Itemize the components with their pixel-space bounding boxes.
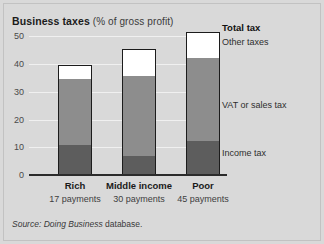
category-label-rich: Rich 17 payments xyxy=(49,180,101,204)
y-axis-tick-label: 40 xyxy=(14,59,24,69)
y-axis-tick-label: 20 xyxy=(14,115,24,125)
bar-middle-income xyxy=(122,49,156,175)
annotation-income-tax: Income tax xyxy=(222,148,266,158)
bar-segment-vat-or-sales-tax xyxy=(59,79,91,145)
plot-area: 01020304050 xyxy=(29,28,215,175)
annotation-other-taxes: Other taxes xyxy=(222,37,269,47)
bar-poor xyxy=(186,32,220,175)
bar-segment-income-tax xyxy=(187,141,219,175)
y-axis-tick-label: 10 xyxy=(14,142,24,152)
chart-title-subtitle: (% of gross profit) xyxy=(90,16,174,27)
bar-segment-income-tax xyxy=(123,156,155,175)
source-italic: Source: Doing Business xyxy=(12,219,103,229)
annotation-total-tax: Total tax xyxy=(222,22,260,33)
annotation-vat-or-sales-tax: VAT or sales tax xyxy=(222,100,287,110)
source-plain: database. xyxy=(103,219,143,229)
bar-segment-vat-or-sales-tax xyxy=(123,76,155,156)
chart-title: Business taxes (% of gross profit) xyxy=(12,11,174,29)
bar-segment-income-tax xyxy=(59,145,91,175)
category-name: Poor xyxy=(177,180,229,191)
bar-segment-other-taxes xyxy=(187,33,219,58)
category-name: Middle income xyxy=(106,180,172,191)
y-axis-tick-label: 30 xyxy=(14,87,24,97)
bar-segment-vat-or-sales-tax xyxy=(187,58,219,141)
category-name: Rich xyxy=(49,180,101,191)
chart-title-main: Business taxes xyxy=(12,15,90,27)
category-sublabel: 45 payments xyxy=(177,194,229,204)
source-note: Source: Doing Business database. xyxy=(12,219,142,229)
category-sublabel: 30 payments xyxy=(106,194,172,204)
chart-figure: Business taxes (% of gross profit) 01020… xyxy=(0,0,324,244)
y-axis-tick-label: 50 xyxy=(14,31,24,41)
category-sublabel: 17 payments xyxy=(49,194,101,204)
bar-segment-other-taxes xyxy=(59,66,91,78)
x-axis-line xyxy=(29,174,227,176)
category-label-middle-income: Middle income 30 payments xyxy=(106,180,172,204)
category-label-poor: Poor 45 payments xyxy=(177,180,229,204)
bar-segment-other-taxes xyxy=(123,50,155,76)
bar-rich xyxy=(58,65,92,175)
y-axis-tick-label: 0 xyxy=(19,170,24,180)
